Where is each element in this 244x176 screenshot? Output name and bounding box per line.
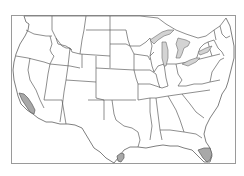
lake-michigan	[162, 42, 168, 66]
map-frame	[12, 16, 236, 164]
map-canvas	[0, 0, 244, 176]
us-map	[0, 0, 244, 176]
